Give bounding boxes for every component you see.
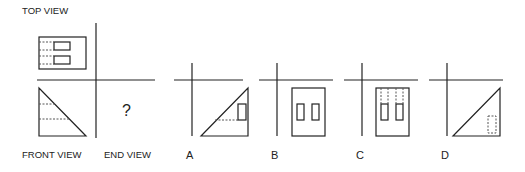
front-view-drawing [39,88,86,136]
front-view-label: FRONT VIEW [22,149,81,160]
option-b-label[interactable]: B [271,149,278,161]
orthographic-projection-diagram: TOP VIEW FRONT VIEW END VIEW ? A B C [0,0,525,172]
question-mark: ? [122,102,131,119]
option-c-figure[interactable] [344,63,418,136]
option-d-label[interactable]: D [441,149,449,161]
option-a-label[interactable]: A [186,149,194,161]
end-view-label: END VIEW [104,149,151,160]
option-b-figure[interactable] [259,63,333,136]
option-c-label[interactable]: C [356,149,364,161]
top-view-label: TOP VIEW [22,5,68,16]
question-figure [37,23,155,138]
top-view-drawing [39,37,86,69]
option-d-figure[interactable] [429,63,503,136]
option-a-figure[interactable] [174,63,248,136]
